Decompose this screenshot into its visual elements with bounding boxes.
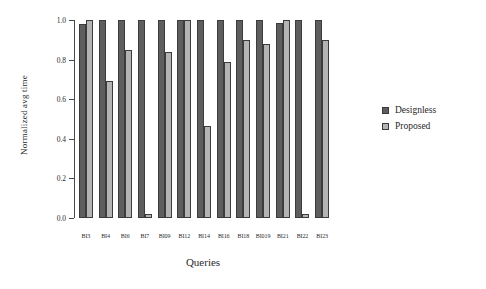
x-axis-tick-label: BI12 bbox=[178, 233, 190, 239]
bar-BI4-proposed bbox=[106, 81, 113, 218]
x-axis-tick-label: BI16 bbox=[218, 233, 230, 239]
x-axis-tick-label: BI18 bbox=[238, 233, 250, 239]
bar-BI6-designless bbox=[118, 20, 125, 218]
bars-container bbox=[75, 20, 331, 218]
bar-BI22-proposed bbox=[302, 214, 309, 218]
bar-BI3-proposed bbox=[86, 20, 93, 218]
y-axis-tick-mark bbox=[69, 139, 74, 140]
y-axis-tick-labels: 0.00.20.40.60.81.0 bbox=[40, 0, 66, 289]
y-axis-tick-label: 0.4 bbox=[42, 134, 66, 143]
legend-label: Proposed bbox=[395, 121, 430, 131]
x-axis-tick-label: BI7 bbox=[141, 233, 150, 239]
legend-swatch-icon bbox=[382, 107, 389, 114]
bar-BI16-proposed bbox=[224, 62, 231, 218]
x-axis-tick-label: BI21 bbox=[277, 233, 289, 239]
bar-BI18-designless bbox=[236, 20, 243, 218]
bar-group bbox=[315, 20, 329, 218]
chart-legend: DesignlessProposed bbox=[382, 103, 478, 135]
bar-group bbox=[99, 20, 113, 218]
bar-BI21-proposed bbox=[283, 20, 290, 218]
y-axis-tick-label: 0.2 bbox=[42, 174, 66, 183]
y-axis-tick-label: 0.0 bbox=[42, 214, 66, 223]
bar-group bbox=[236, 20, 250, 218]
x-axis-title: Queries bbox=[75, 256, 331, 268]
y-axis-title: Normalized avg time bbox=[14, 0, 34, 230]
x-axis-tick-labels: BI3BI4BI6BI7BI09BI12BI14BI16BI18BI019BI2… bbox=[75, 233, 331, 247]
bar-BI16-designless bbox=[217, 20, 224, 218]
legend-item-proposed: Proposed bbox=[382, 119, 478, 133]
bar-BI3-designless bbox=[79, 24, 86, 218]
y-axis-tick-label: 1.0 bbox=[42, 16, 66, 25]
x-axis-tick-label: BI4 bbox=[101, 233, 110, 239]
bar-group bbox=[79, 20, 93, 218]
x-axis-tick-label: BI6 bbox=[121, 233, 130, 239]
bar-BI12-proposed bbox=[184, 20, 191, 218]
y-axis-tick-mark bbox=[69, 99, 74, 100]
bar-BI23-proposed bbox=[322, 40, 329, 218]
bar-BI4-designless bbox=[99, 20, 106, 218]
bar-BI12-designless bbox=[177, 20, 184, 218]
bar-group bbox=[197, 20, 211, 218]
bar-BI14-proposed bbox=[204, 126, 211, 218]
y-axis-tick-mark bbox=[69, 60, 74, 61]
bar-group bbox=[256, 20, 270, 218]
x-axis-tick-label: BI22 bbox=[297, 233, 309, 239]
bar-group bbox=[177, 20, 191, 218]
bar-BI019-designless bbox=[256, 20, 263, 218]
legend-swatch-icon bbox=[382, 123, 389, 130]
bar-group bbox=[276, 20, 290, 218]
bar-group bbox=[138, 20, 152, 218]
bar-group bbox=[217, 20, 231, 218]
bar-group bbox=[158, 20, 172, 218]
x-axis-tick-label: BI3 bbox=[81, 233, 90, 239]
x-axis-tick-label: BI019 bbox=[256, 233, 271, 239]
bar-BI6-proposed bbox=[125, 50, 132, 218]
bar-BI09-proposed bbox=[165, 52, 172, 218]
bar-BI7-designless bbox=[138, 20, 145, 218]
legend-label: Designless bbox=[395, 105, 436, 115]
y-axis-tick-label: 0.6 bbox=[42, 95, 66, 104]
x-axis-tick-label: BI14 bbox=[198, 233, 210, 239]
bar-BI23-designless bbox=[315, 20, 322, 218]
legend-item-designless: Designless bbox=[382, 103, 478, 117]
bar-BI019-proposed bbox=[263, 44, 270, 218]
y-axis-tick-mark bbox=[69, 218, 74, 219]
bar-chart-figure: Normalized avg time 0.00.20.40.60.81.0 B… bbox=[0, 0, 486, 289]
bar-BI21-designless bbox=[276, 23, 283, 218]
y-axis-tick-mark bbox=[69, 20, 74, 21]
y-axis-tick-label: 0.8 bbox=[42, 55, 66, 64]
bar-BI14-designless bbox=[197, 20, 204, 218]
y-axis-tick-mark bbox=[69, 178, 74, 179]
bar-BI09-designless bbox=[158, 20, 165, 218]
x-axis-tick-label: BI09 bbox=[159, 233, 171, 239]
bar-BI18-proposed bbox=[243, 40, 250, 218]
bar-group bbox=[295, 20, 309, 218]
bar-BI22-designless bbox=[295, 20, 302, 218]
bar-group bbox=[118, 20, 132, 218]
y-axis-title-text: Normalized avg time bbox=[19, 75, 29, 155]
bar-BI7-proposed bbox=[145, 214, 152, 218]
x-axis-tick-label: BI23 bbox=[316, 233, 328, 239]
